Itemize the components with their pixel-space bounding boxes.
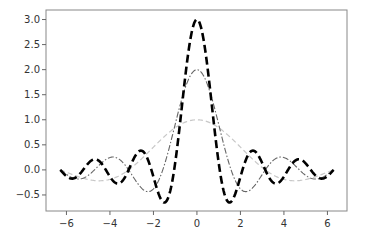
- x-tick-label: −2: [146, 218, 161, 229]
- x-tick-label: 2: [237, 218, 243, 229]
- y-tick-label: 2.0: [24, 64, 40, 75]
- y-tick-label: 0.5: [24, 139, 40, 150]
- y-tick-label: 3.0: [24, 14, 40, 25]
- y-tick-label: 1.5: [24, 89, 40, 100]
- chart-background: [0, 0, 366, 239]
- y-tick-label: 0.0: [24, 164, 40, 175]
- y-tick-label: −0.5: [16, 189, 40, 200]
- x-tick-label: 6: [324, 218, 330, 229]
- x-tick-label: −4: [103, 218, 118, 229]
- x-tick-label: −6: [59, 218, 74, 229]
- y-tick-label: 1.0: [24, 114, 40, 125]
- line-chart: −6−4−20246 −0.50.00.51.01.52.02.53.0: [0, 0, 366, 239]
- x-tick-label: 4: [281, 218, 287, 229]
- y-tick-label: 2.5: [24, 39, 40, 50]
- x-tick-label: 0: [194, 218, 200, 229]
